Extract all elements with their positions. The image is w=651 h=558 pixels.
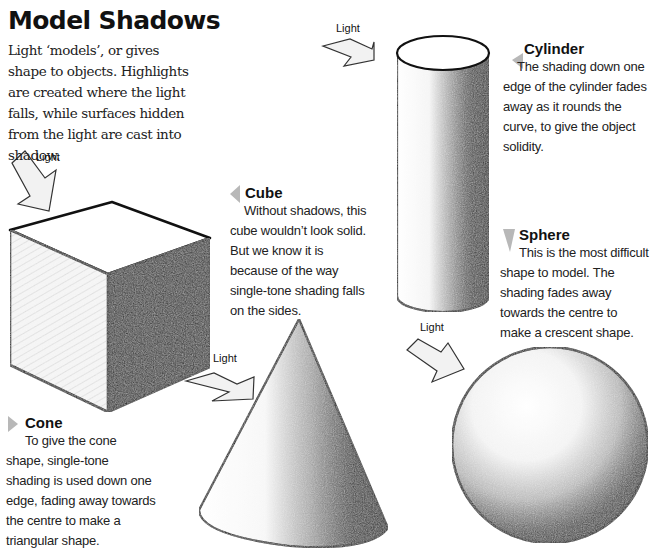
- light-label-cylinder: Light: [336, 22, 360, 34]
- caption-cone-title: Cone: [6, 414, 156, 431]
- light-arrow-cylinder-icon: [323, 39, 374, 66]
- caption-cube-body: Without shadows, this cube wouldn’t look…: [230, 201, 370, 321]
- caption-cylinder-title: Cylinder: [503, 40, 651, 57]
- light-label-sphere: Light: [420, 321, 444, 333]
- page-title: Model Shadows: [8, 6, 220, 35]
- light-label-cube: Light: [36, 151, 60, 163]
- caption-cone-body: To give the cone shape, single-tone shad…: [6, 431, 156, 551]
- caption-sphere: Sphere This is the most difficult shape …: [500, 226, 651, 343]
- caption-sphere-body: This is the most difficult shape to mode…: [500, 243, 651, 343]
- caption-cube-title: Cube: [230, 184, 370, 201]
- light-label-cone: Light: [213, 352, 237, 364]
- intro-text: Light ‘models’, or gives shape to object…: [8, 40, 198, 166]
- caption-sphere-title: Sphere: [500, 226, 651, 243]
- caption-cube: Cube Without shadows, this cube wouldn’t…: [230, 184, 370, 321]
- cylinder-illustration: [397, 36, 489, 312]
- caption-cone: Cone To give the cone shape, single-tone…: [6, 414, 156, 551]
- light-arrow-cone-icon: [186, 373, 254, 401]
- sphere-illustration: [452, 347, 648, 543]
- light-arrow-sphere-icon: [407, 339, 464, 382]
- caption-cylinder: Cylinder The shading down one edge of th…: [503, 40, 651, 157]
- caption-cylinder-body: The shading down one edge of the cylinde…: [503, 57, 651, 157]
- cube-illustration: [10, 202, 210, 412]
